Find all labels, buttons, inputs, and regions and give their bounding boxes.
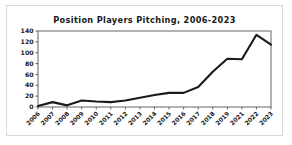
y-tick-label: 20 xyxy=(25,92,34,99)
x-tick-label: 2023 xyxy=(257,110,274,127)
x-tick-label: 2011 xyxy=(97,110,114,127)
y-tick-label: 100 xyxy=(21,49,35,56)
x-tick-label: 2022 xyxy=(243,110,260,127)
y-axis: 020406080100120140 xyxy=(21,27,38,110)
y-tick-label: 80 xyxy=(25,60,34,67)
data-series xyxy=(38,35,271,106)
y-tick-label: 60 xyxy=(25,71,34,78)
x-tick-label: 2006 xyxy=(24,110,41,127)
x-tick-label: 2009 xyxy=(68,110,85,127)
y-tick-label: 40 xyxy=(25,81,34,88)
series-line xyxy=(38,35,271,106)
x-tick-label: 2015 xyxy=(156,110,173,127)
x-tick-label: 2012 xyxy=(112,110,129,127)
x-tick-label: 2013 xyxy=(126,110,143,127)
y-tick-label: 120 xyxy=(21,38,35,45)
x-tick-label: 2008 xyxy=(54,110,71,127)
chart-container: Position Players Pitching, 2006-2023 020… xyxy=(6,5,283,136)
x-tick-label: 2017 xyxy=(185,110,202,127)
x-tick-label: 2016 xyxy=(170,110,187,127)
x-tick-label: 2007 xyxy=(39,110,56,127)
x-tick-label: 2018 xyxy=(199,110,216,127)
x-tick-label: 2014 xyxy=(141,110,158,127)
x-tick-label: 2021 xyxy=(228,110,245,127)
line-chart-plot: 020406080100120140 200620072008200920102… xyxy=(7,6,284,137)
x-axis: 2006200720082009201020112012201320142015… xyxy=(24,107,274,127)
y-tick-label: 0 xyxy=(29,103,34,110)
y-tick-label: 140 xyxy=(21,27,35,34)
x-tick-label: 2010 xyxy=(83,110,100,127)
x-tick-label: 2019 xyxy=(214,110,231,127)
